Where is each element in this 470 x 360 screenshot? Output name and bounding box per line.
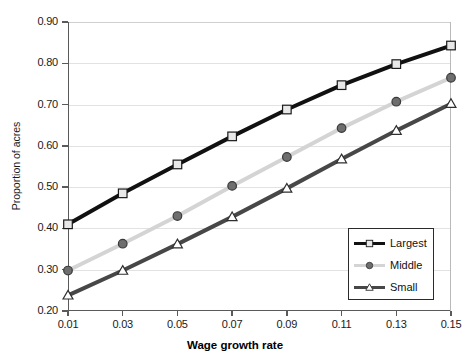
y-axis-tick-label: 0.50 xyxy=(24,180,58,192)
y-axis-tick-label: 0.40 xyxy=(24,221,58,233)
y-axis-tick-label: 0.30 xyxy=(24,263,58,275)
x-axis-tick-label: 0.07 xyxy=(212,318,252,330)
legend-label: Largest xyxy=(390,237,427,249)
x-axis-tick xyxy=(177,311,179,316)
x-axis-tick xyxy=(450,311,452,316)
legend-label: Middle xyxy=(390,259,422,271)
y-axis-tick-label: 0.80 xyxy=(24,56,58,68)
x-axis-tick xyxy=(122,311,124,316)
x-axis-tick xyxy=(341,311,343,316)
legend-item-middle[interactable]: Middle xyxy=(354,255,432,275)
legend-marker-circle-icon xyxy=(365,261,374,270)
x-axis-tick-label: 0.03 xyxy=(103,318,143,330)
legend-item-largest[interactable]: Largest xyxy=(354,233,432,253)
x-axis-tick xyxy=(396,311,398,316)
y-axis-tick-label: 0.70 xyxy=(24,98,58,110)
x-axis-tick xyxy=(231,311,233,316)
x-axis-tick xyxy=(286,311,288,316)
legend-item-small[interactable]: Small xyxy=(354,277,432,297)
y-axis-tick-label: 0.90 xyxy=(24,15,58,27)
y-axis-tick-label: 0.20 xyxy=(24,304,58,316)
x-axis-tick-label: 0.15 xyxy=(431,318,470,330)
x-axis-title: Wage growth rate xyxy=(0,339,470,351)
y-axis-tick-label: 0.60 xyxy=(24,139,58,151)
legend-swatch-square-icon xyxy=(354,236,385,250)
legend[interactable]: LargestMiddleSmall xyxy=(348,228,434,300)
legend-marker-triangle-icon xyxy=(365,283,374,292)
x-axis-tick-label: 0.13 xyxy=(376,318,416,330)
x-axis-tick-label: 0.11 xyxy=(322,318,362,330)
x-axis-tick xyxy=(67,311,69,316)
plot-right-border xyxy=(450,22,451,311)
legend-swatch-triangle-icon xyxy=(354,280,385,294)
legend-label: Small xyxy=(390,281,418,293)
x-axis-tick-label: 0.05 xyxy=(157,318,197,330)
legend-marker-square-icon xyxy=(365,239,374,248)
y-axis-title: Proportion of acres xyxy=(10,91,22,241)
chart-container: 0.200.300.400.500.600.700.800.90 0.010.0… xyxy=(0,0,470,360)
x-axis-tick-label: 0.01 xyxy=(48,318,88,330)
legend-swatch-circle-icon xyxy=(354,258,385,272)
x-axis-tick-label: 0.09 xyxy=(267,318,307,330)
